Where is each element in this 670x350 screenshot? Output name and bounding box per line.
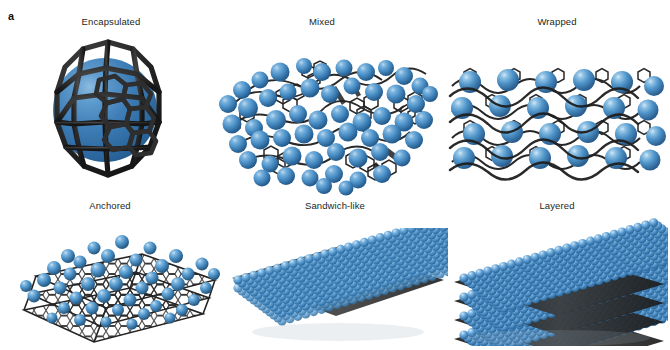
- panel-wrapped: [448, 50, 666, 182]
- panel-sandwich-like: [228, 228, 448, 346]
- figure-panel-a: a Encapsulated Mixed Wrapped Anchored Sa…: [0, 0, 670, 350]
- panel-label-layered: Layered: [487, 200, 627, 211]
- panel-layered: [450, 216, 668, 346]
- panel-label-mixed: Mixed: [252, 16, 392, 27]
- panel-anchored: [10, 222, 225, 344]
- panel-label-sandwich-like: Sandwich-like: [265, 200, 405, 211]
- sandwich-slab: [228, 228, 448, 346]
- layered-multilayer-stack: [450, 216, 668, 346]
- panel-mixed: [218, 38, 438, 196]
- panel-encapsulated: [25, 30, 195, 195]
- mixed-graphene-sheets: [218, 38, 438, 196]
- panel-label-anchored: Anchored: [40, 200, 180, 211]
- anchored-graphene-stack: [10, 222, 225, 344]
- encapsulated-carbon-cage: [33, 36, 183, 188]
- subfigure-marker: a: [8, 10, 14, 22]
- wrapped-carbon-wrap: [448, 50, 666, 182]
- panel-label-encapsulated: Encapsulated: [41, 16, 181, 27]
- panel-label-wrapped: Wrapped: [487, 16, 627, 27]
